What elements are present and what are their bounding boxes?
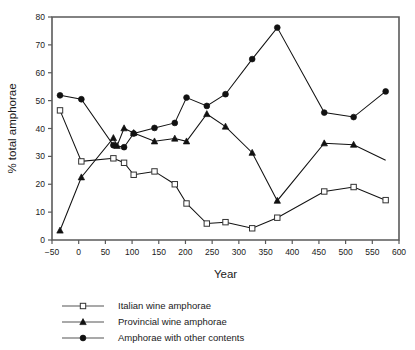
- data-point-0-7: [184, 201, 189, 206]
- data-point-0-5: [152, 169, 157, 174]
- x-axis-tick-label: 450: [312, 247, 326, 257]
- data-point-2-1: [78, 96, 84, 102]
- data-point-1-9: [204, 111, 210, 117]
- legend-marker-2: [80, 335, 86, 341]
- data-point-0-0: [57, 108, 62, 113]
- data-point-2-8: [204, 103, 210, 109]
- data-point-0-14: [383, 197, 388, 202]
- data-point-1-4: [121, 125, 127, 131]
- data-point-2-13: [351, 114, 357, 120]
- x-axis-tick-label: 500: [339, 247, 353, 257]
- x-axis-tick-label: 350: [258, 247, 272, 257]
- x-axis-tick-label: 150: [152, 247, 166, 257]
- data-point-0-13: [351, 184, 356, 189]
- y-axis-tick-label: 40: [36, 124, 46, 134]
- x-axis-tick-label: 200: [178, 247, 192, 257]
- y-axis-tick-label: 10: [36, 207, 46, 217]
- y-axis-tick-label: 60: [36, 68, 46, 78]
- legend-label-2: Amphorae with other contents: [118, 332, 244, 343]
- data-point-0-12: [322, 189, 327, 194]
- y-axis-tick-label: 80: [36, 12, 46, 22]
- chart-container: 01020304050607080−5005010015020025030035…: [0, 0, 415, 350]
- series-line-1: [60, 114, 386, 231]
- data-point-2-2: [110, 142, 116, 148]
- data-point-2-11: [274, 25, 280, 31]
- y-axis-tick-label: 50: [36, 96, 46, 106]
- y-axis-title: % total amphorae: [6, 83, 18, 173]
- x-axis-tick-label: −50: [45, 247, 60, 257]
- x-axis-tick-label: 550: [365, 247, 379, 257]
- data-point-2-14: [383, 89, 389, 95]
- data-point-0-2: [111, 156, 116, 161]
- data-point-2-0: [57, 92, 63, 98]
- x-axis-title: Year: [214, 268, 237, 280]
- y-axis-tick-label: 20: [36, 179, 46, 189]
- legend-label-1: Provincial wine amphorae: [118, 316, 227, 327]
- amphorae-line-chart: 01020304050607080−5005010015020025030035…: [0, 0, 415, 350]
- x-axis-tick-label: 50: [101, 247, 111, 257]
- data-point-2-9: [223, 91, 229, 97]
- data-point-2-10: [249, 56, 255, 62]
- data-point-1-2: [110, 135, 116, 141]
- y-axis-tick-label: 0: [40, 235, 45, 245]
- data-point-1-7: [172, 135, 178, 141]
- data-point-2-5: [152, 125, 158, 131]
- x-axis-tick-label: 250: [205, 247, 219, 257]
- data-point-2-7: [184, 95, 190, 101]
- data-point-0-10: [249, 226, 254, 231]
- data-point-2-12: [321, 110, 327, 116]
- data-point-2-4: [131, 131, 137, 137]
- y-axis-tick-label: 70: [36, 40, 46, 50]
- legend-marker-0: [80, 303, 85, 308]
- data-point-1-10: [222, 123, 228, 129]
- y-axis-tick-label: 30: [36, 151, 46, 161]
- legend-label-0: Italian wine amphorae: [118, 300, 211, 311]
- data-point-0-6: [172, 182, 177, 187]
- x-axis-tick-label: 300: [232, 247, 246, 257]
- data-point-0-1: [79, 159, 84, 164]
- data-point-0-8: [204, 221, 209, 226]
- x-axis-tick-label: 100: [125, 247, 139, 257]
- data-point-0-4: [131, 172, 136, 177]
- x-axis-tick-label: 600: [392, 247, 406, 257]
- data-point-0-11: [275, 215, 280, 220]
- data-point-0-9: [223, 219, 228, 224]
- x-axis-tick-label: 400: [285, 247, 299, 257]
- data-point-2-3: [121, 144, 127, 150]
- x-axis-tick-label: 0: [76, 247, 81, 257]
- data-point-2-6: [172, 120, 178, 126]
- data-point-1-0: [57, 227, 63, 233]
- data-point-0-3: [121, 160, 126, 165]
